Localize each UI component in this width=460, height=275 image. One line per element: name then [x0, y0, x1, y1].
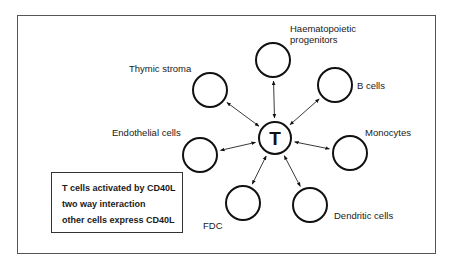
- label-haematopoietic: Haematopoietic progenitors: [290, 23, 356, 45]
- cell-node-bcells: [318, 68, 352, 102]
- label-line: Monocytes: [365, 127, 411, 138]
- interaction-arrow-thymic: [227, 102, 259, 126]
- label-dendritic-cells: Dendritic cells: [334, 210, 393, 221]
- label-fdc: FDC: [203, 220, 223, 231]
- cell-node-thymic: [193, 73, 227, 107]
- label-endothelial-cells: Endothelial cells: [112, 127, 181, 138]
- interaction-arrow-bcells: [290, 99, 319, 125]
- t-cell-label: T: [269, 128, 281, 149]
- cell-node-endothelial: [183, 138, 217, 172]
- cell-node-haematopoietic: [256, 43, 290, 77]
- cell-node-fdc: [226, 186, 260, 220]
- label-line: Haematopoietic: [290, 23, 356, 34]
- cell-node-dendritic: [293, 188, 327, 222]
- interaction-arrow-dendritic: [284, 156, 300, 187]
- label-line: Thymic stroma: [129, 63, 191, 74]
- legend-line-3: other cells express CD40L: [62, 212, 182, 228]
- legend-box: T cells activated by CD40L two way inter…: [51, 172, 183, 233]
- interaction-arrow-fdc: [252, 156, 266, 184]
- cell-node-monocytes: [333, 136, 367, 170]
- label-line: FDC: [203, 220, 223, 231]
- legend-line-2: two way interaction: [62, 196, 182, 212]
- label-line: Dendritic cells: [334, 210, 393, 221]
- label-line: progenitors: [290, 34, 356, 45]
- interaction-arrow-haematopoietic: [274, 81, 275, 118]
- label-line: B cells: [357, 80, 385, 91]
- interaction-arrow-endothelial: [220, 142, 255, 150]
- label-b-cells: B cells: [357, 80, 385, 91]
- label-line: Endothelial cells: [112, 127, 181, 138]
- interaction-arrow-monocytes: [295, 142, 330, 149]
- legend-line-1: T cells activated by CD40L: [62, 180, 182, 196]
- label-thymic-stroma: Thymic stroma: [129, 63, 191, 74]
- label-monocytes: Monocytes: [365, 127, 411, 138]
